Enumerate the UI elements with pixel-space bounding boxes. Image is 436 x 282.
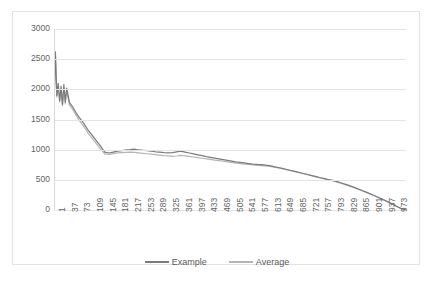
x-axis-tick-label: 793 [337,198,346,212]
x-axis-tick-label: 397 [198,198,207,212]
y-axis: 300025002000150010005000 [13,29,50,210]
y-axis-tick-label: 2000 [16,84,50,93]
y-axis-tick-label: 2500 [16,54,50,63]
legend-item-average[interactable]: Average [229,257,289,267]
y-axis-tick-label: 3000 [16,24,50,33]
gridline-y [54,120,406,121]
x-axis-tick-label: 937 [388,198,397,212]
gridline-y [54,59,406,60]
gridline-y [54,29,406,30]
x-axis-tick-label: 325 [172,198,181,212]
x-axis-tick-label: 217 [134,198,143,212]
x-axis-tick-label: 73 [83,203,92,212]
x-axis-tick-label: 901 [375,198,384,212]
x-axis-tick-label: 469 [223,198,232,212]
x-axis-tick-label: 109 [96,198,105,212]
y-axis-tick-label: 500 [16,175,50,184]
x-axis-tick-label: 685 [299,198,308,212]
legend-item-example[interactable]: Example [145,257,207,267]
x-axis-tick-label: 253 [147,198,156,212]
x-axis-tick-label: 757 [324,198,333,212]
legend-label: Average [256,257,289,267]
x-axis-tick-label: 289 [159,198,168,212]
x-axis-tick-label: 181 [121,198,130,212]
y-axis-line [54,29,55,210]
x-axis-tick-label: 613 [274,198,283,212]
x-axis-tick-label: 361 [185,198,194,212]
x-axis-tick-label: 865 [362,198,371,212]
x-axis-tick-label: 973 [400,198,409,212]
x-axis-tick-label: 541 [248,198,257,212]
chart-legend: ExampleAverage [13,255,421,269]
y-axis-tick-label: 1000 [16,145,50,154]
y-axis-tick-label: 0 [16,205,50,214]
legend-label: Example [172,257,207,267]
x-axis-tick-label: 433 [210,198,219,212]
x-axis-tick-label: 721 [312,198,321,212]
legend-swatch-icon [229,261,253,263]
x-axis: 1377310914518121725328932536139743346950… [54,212,406,258]
plot-area [54,29,406,210]
legend-swatch-icon [145,261,169,263]
gridline-y [54,180,406,181]
gridline-y [54,89,406,90]
x-axis-tick-label: 505 [236,198,245,212]
y-axis-tick-label: 1500 [16,115,50,124]
chart-container: 300025002000150010005000 137731091451812… [12,11,420,265]
gridline-y [54,150,406,151]
x-axis-tick-label: 577 [261,198,270,212]
x-axis-tick-label: 829 [350,198,359,212]
x-axis-tick-label: 145 [109,198,118,212]
series-line-example [54,52,406,210]
x-axis-tick-label: 37 [71,203,80,212]
x-axis-tick-label: 1 [58,207,67,212]
x-axis-tick-label: 649 [286,198,295,212]
